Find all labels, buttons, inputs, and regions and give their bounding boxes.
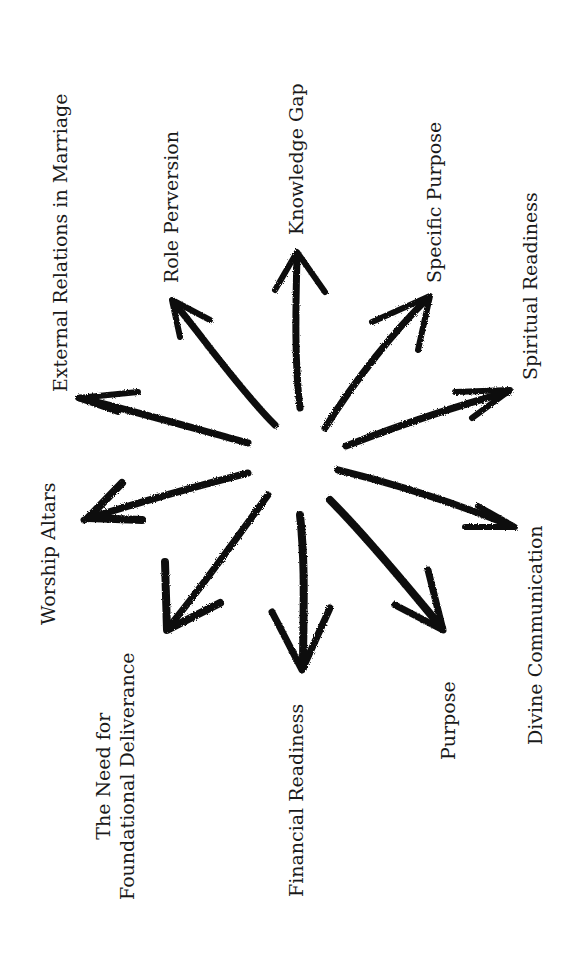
arrow-specific-purpose-icon — [325, 296, 430, 428]
arrow-financial-readiness-icon — [272, 515, 330, 670]
label-foundational-deliverance: The Need for Foundational Deliverance — [92, 652, 140, 900]
label-financial-readiness: Financial Readiness — [285, 704, 309, 897]
arrow-role-perversion-icon — [172, 300, 275, 425]
label-foundational-line1: The Need for — [92, 652, 116, 900]
arrow-purpose-icon — [330, 500, 443, 630]
label-worship-altars: Worship Altars — [37, 482, 61, 625]
arrow-external-relations-icon — [78, 392, 248, 443]
arrow-divine-communication-icon — [338, 470, 515, 527]
label-spiritual-readiness: Spiritual Readiness — [519, 192, 543, 380]
arrow-worship-altars-icon — [84, 473, 248, 520]
label-specific-purpose: Specific Purpose — [423, 122, 447, 283]
label-divine-communication: Divine Communication — [524, 525, 548, 745]
arrow-foundational-deliverance-icon — [165, 495, 268, 630]
label-role-perversion: Role Perversion — [160, 131, 184, 283]
arrow-knowledge-gap-icon — [275, 252, 325, 408]
arrow-spiritual-readiness-icon — [346, 390, 510, 446]
radial-arrow-diagram: External Relations in Marriage Role Perv… — [0, 0, 575, 961]
label-foundational-line2: Foundational Deliverance — [116, 652, 140, 900]
label-knowledge-gap: Knowledge Gap — [285, 83, 309, 235]
label-purpose: Purpose — [437, 681, 461, 760]
label-external-relations: External Relations in Marriage — [49, 94, 73, 392]
